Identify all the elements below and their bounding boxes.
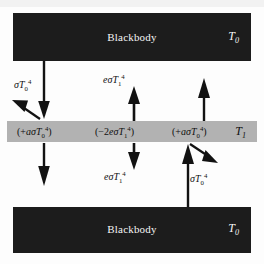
arrow-down-from-top-plate-left: [38, 61, 50, 119]
arrow-up-shield-emission-center: [128, 86, 140, 121]
arrow-reflected-down-right: [190, 144, 218, 163]
radiation-shield-diagram: Blackbody T0 (+aσT04) (−2eσT14) (+aσT04)…: [0, 0, 264, 264]
arrow-layer: [0, 0, 264, 264]
arrow-up-right-above-shield: [198, 78, 210, 121]
arrow-down-shield-emission-center: [128, 143, 140, 170]
arrow-down-below-shield-left: [38, 143, 50, 186]
arrow-reflected-up-left: [12, 100, 40, 119]
arrow-up-from-bottom-plate-right: [182, 144, 194, 207]
